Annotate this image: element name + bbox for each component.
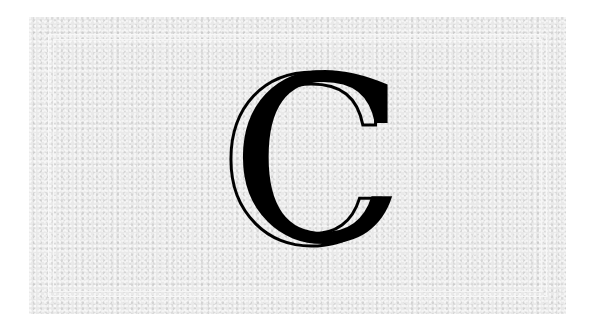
monogram-letter: C [230, 47, 406, 277]
monogram: C C [29, 17, 566, 314]
paper-card: C C [29, 17, 566, 314]
